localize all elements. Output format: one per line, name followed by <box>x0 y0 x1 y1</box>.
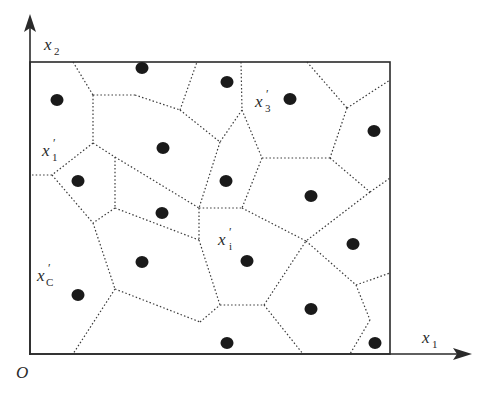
voronoi-edges <box>30 62 390 354</box>
site-label-xc-prime: x ′ C <box>36 261 53 288</box>
svg-text:2: 2 <box>54 45 60 57</box>
site-point <box>305 303 318 315</box>
voronoi-diagram: O x 2 x 1 x ′ 1 x ′ 3 x ′ i x ′ C <box>0 0 488 393</box>
voronoi-edge <box>347 80 390 108</box>
voronoi-edge <box>350 320 370 354</box>
svg-text:′: ′ <box>48 261 51 275</box>
svg-text:x: x <box>43 35 52 54</box>
site-point <box>157 142 170 154</box>
site-point <box>136 256 149 268</box>
site-label-x1-prime: x ′ 1 <box>41 136 58 163</box>
site-label-xi-prime: x ′ i <box>217 225 232 252</box>
svg-text:3: 3 <box>265 102 271 114</box>
voronoi-edge <box>52 143 93 175</box>
voronoi-edge <box>180 62 197 110</box>
site-point <box>305 190 318 202</box>
site-point <box>221 337 234 349</box>
voronoi-edge <box>330 108 347 158</box>
voronoi-edge <box>241 62 242 110</box>
voronoi-edge <box>307 62 347 108</box>
voronoi-edge <box>115 289 200 322</box>
svg-text:1: 1 <box>432 338 438 350</box>
voronoi-sites <box>51 62 382 349</box>
svg-text:′: ′ <box>266 87 269 101</box>
svg-text:1: 1 <box>52 151 58 163</box>
site-point <box>156 207 169 219</box>
voronoi-edge <box>199 142 220 208</box>
svg-text:x: x <box>36 266 45 285</box>
voronoi-edge <box>356 285 370 320</box>
site-point <box>72 289 85 301</box>
site-point <box>241 255 254 267</box>
voronoi-edge <box>242 158 262 208</box>
voronoi-edge <box>135 95 180 110</box>
voronoi-edge <box>220 110 242 142</box>
site-point <box>220 175 233 187</box>
y-axis-label: x 2 <box>43 35 60 57</box>
voronoi-edge <box>356 273 390 285</box>
svg-text:C: C <box>46 276 53 288</box>
voronoi-edge <box>330 158 370 192</box>
voronoi-edge <box>199 240 220 305</box>
voronoi-edge <box>200 305 220 322</box>
svg-text:i: i <box>229 240 232 252</box>
voronoi-edge <box>264 241 306 305</box>
svg-text:x: x <box>421 328 430 347</box>
site-label-x3-prime: x ′ 3 <box>254 87 271 114</box>
voronoi-edge <box>242 110 262 158</box>
site-point <box>51 94 64 106</box>
x-axis-label: x 1 <box>421 328 438 350</box>
voronoi-edge <box>370 178 390 192</box>
site-point <box>72 175 85 187</box>
voronoi-edge <box>180 110 220 142</box>
voronoi-edge <box>264 305 303 354</box>
svg-text:x: x <box>217 230 226 249</box>
domain-frame <box>30 62 390 354</box>
site-point <box>347 238 360 250</box>
svg-text:′: ′ <box>229 225 232 239</box>
voronoi-edge <box>242 208 306 241</box>
origin-label: O <box>16 363 28 382</box>
site-point <box>221 76 234 88</box>
svg-text:x: x <box>41 141 50 160</box>
voronoi-edge <box>93 143 115 157</box>
voronoi-edge <box>73 62 93 95</box>
site-point <box>369 337 382 349</box>
site-point <box>284 93 297 105</box>
site-point <box>368 125 381 137</box>
voronoi-edge <box>93 208 115 223</box>
svg-text:x: x <box>254 92 263 111</box>
site-point <box>136 62 149 74</box>
voronoi-edge <box>115 157 199 208</box>
voronoi-edge <box>93 223 115 289</box>
svg-text:′: ′ <box>53 136 56 150</box>
